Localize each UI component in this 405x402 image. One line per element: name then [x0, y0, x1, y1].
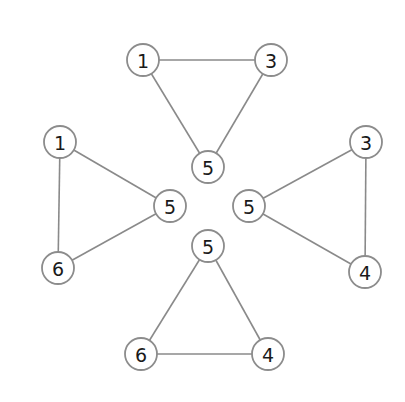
node-label: 5 — [164, 196, 176, 218]
node-top-5: 5 — [192, 151, 224, 183]
node-label: 6 — [52, 258, 64, 280]
nodes-layer: 135156354564 — [42, 44, 382, 370]
node-label: 5 — [202, 157, 214, 179]
node-left-6: 6 — [42, 252, 74, 284]
node-label: 3 — [265, 50, 277, 72]
edge-1-5 — [60, 142, 170, 206]
node-right-5: 5 — [233, 190, 265, 222]
edge-5-6 — [58, 206, 170, 268]
node-right-3: 3 — [350, 126, 382, 158]
node-label: 3 — [360, 132, 372, 154]
edge-3-5 — [208, 60, 271, 167]
edge-4-3 — [365, 142, 366, 272]
node-label: 4 — [359, 262, 371, 284]
node-label: 1 — [137, 50, 149, 72]
node-left-5: 5 — [154, 190, 186, 222]
node-right-4: 4 — [349, 256, 381, 288]
node-bottom-5: 5 — [192, 230, 224, 262]
triangle-right — [249, 142, 366, 272]
node-top-1: 1 — [127, 44, 159, 76]
node-left-1: 1 — [44, 126, 76, 158]
node-top-3: 3 — [255, 44, 287, 76]
triangle-graph-diagram: 135156354564 — [0, 0, 405, 402]
node-label: 4 — [262, 344, 274, 366]
edge-4-5 — [208, 246, 268, 354]
node-bottom-6: 6 — [125, 338, 157, 370]
edge-6-1 — [58, 142, 60, 268]
node-bottom-4: 4 — [252, 338, 284, 370]
edge-5-4 — [249, 206, 365, 272]
edge-3-5 — [249, 142, 366, 206]
node-label: 6 — [135, 344, 147, 366]
node-label: 5 — [243, 196, 255, 218]
edge-5-1 — [143, 60, 208, 167]
node-label: 5 — [202, 236, 214, 258]
edge-5-6 — [141, 246, 208, 354]
edges-layer — [58, 60, 366, 354]
node-label: 1 — [54, 132, 66, 154]
